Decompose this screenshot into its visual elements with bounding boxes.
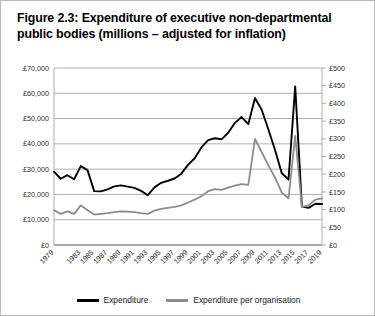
y-axis-right-tick-label: £0 [329,241,337,250]
legend-swatch-expenditure [77,299,99,302]
legend-item-expenditure: Expenditure [77,295,149,305]
y-axis-left-tick-label: £10,000 [23,215,49,224]
x-axis-tick-label: 2019 [306,248,324,266]
y-axis-left-tick-label: £20,000 [23,190,49,199]
y-axis-right-tick-label: £200 [329,170,345,179]
x-axis-tick-label: 1979 [38,248,56,266]
y-axis-right-tick-label: £300 [329,134,345,143]
y-axis-right-tick-label: £350 [329,117,345,126]
y-axis-left-tick-label: £30,000 [23,165,49,174]
legend-label-expenditure: Expenditure [104,295,149,305]
y-axis-left-tick-label: £60,000 [23,89,49,98]
y-axis-left-tick-label: £40,000 [23,139,49,148]
y-axis-left-tick-label: £50,000 [23,114,49,123]
figure-title: Figure 2.3: Expenditure of executive non… [17,10,347,43]
y-axis-right-tick-label: £500 [329,64,345,73]
chart-plot-area: £0£10,000£20,000£30,000£40,000£50,000£60… [1,57,375,289]
series-line [54,86,322,207]
legend-label-expenditure-per-organisation: Expenditure per organisation [193,295,300,305]
y-axis-right-tick-label: £400 [329,99,345,108]
y-axis-left-tick-label: £70,000 [23,64,49,73]
series-line [54,136,322,215]
y-axis-right-tick-label: £100 [329,205,345,214]
chart-svg: £0£10,000£20,000£30,000£40,000£50,000£60… [1,57,375,289]
y-axis-right-tick-label: £450 [329,81,345,90]
chart-legend: Expenditure Expenditure per organisation [1,292,375,308]
legend-swatch-expenditure-per-organisation [166,299,188,302]
y-axis-right-tick-label: £250 [329,152,345,161]
legend-item-expenditure-per-organisation: Expenditure per organisation [166,295,300,305]
y-axis-right-tick-label: £150 [329,188,345,197]
y-axis-right-tick-label: £50 [329,223,341,232]
figure-container: Figure 2.3: Expenditure of executive non… [0,0,375,316]
